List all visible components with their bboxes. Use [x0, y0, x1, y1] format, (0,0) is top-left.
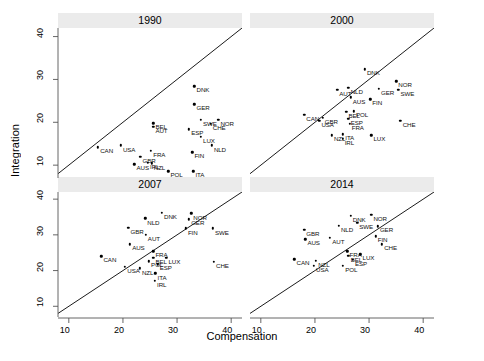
data-point-label: CHE — [384, 245, 397, 251]
panel-strip-label-2014: 2014 — [250, 177, 434, 192]
data-point-label: DNK — [164, 214, 177, 220]
y-axis-row-0 — [52, 28, 59, 178]
data-point-label: CAN — [297, 260, 310, 266]
data-point-label: NZL — [334, 136, 345, 142]
identity-reference-line — [250, 192, 434, 317]
plot-area-1990: CANUSAAUSGBRIRLNZLFRABELAUTPOLDNKGERSWEE… — [58, 28, 242, 178]
data-point-label: FRA — [153, 152, 165, 158]
x-tick-label-10: 10 — [252, 326, 262, 335]
data-point-label: NOR — [373, 216, 386, 222]
plot-area-2007: CANUSAGBRAUSNZLNLDAUTPOLFRABELITAIRLESPD… — [58, 192, 242, 317]
data-point-label: LUX — [373, 136, 385, 142]
y-tick-label-10: 10 — [36, 297, 45, 307]
data-point-label: GBR — [306, 231, 319, 237]
plot-area-2014: CANGBRAUSUSANZLAUTNLDPOLFRABELESPDNKSWEL… — [250, 192, 434, 317]
x-tick-label-20: 20 — [114, 326, 124, 335]
data-point-label: FRA — [352, 125, 364, 131]
data-point-label: NZL — [154, 165, 165, 171]
data-point-label: GER — [197, 105, 210, 111]
data-point-label: GBR — [131, 229, 144, 235]
data-point-label: AUS — [353, 99, 365, 105]
y-tick-label-20: 20 — [36, 262, 45, 272]
data-point-label: NZL — [142, 270, 153, 276]
x-tick-label-30: 30 — [360, 326, 370, 335]
data-point-label: SWE — [359, 224, 373, 230]
data-point-label: ITA — [345, 135, 354, 141]
data-point-label: NOR — [398, 82, 411, 88]
data-point-label: LUX — [168, 259, 180, 265]
data-point-label: POL — [345, 267, 357, 273]
y-tick-label-40: 40 — [36, 190, 45, 200]
data-point-label: AUS — [137, 165, 149, 171]
data-point-label: GER — [380, 227, 393, 233]
data-point-label: SWE — [400, 91, 414, 97]
data-point-label: NLD — [351, 89, 363, 95]
data-point-label: ESP — [355, 261, 367, 267]
data-point-label: CAN — [100, 148, 113, 154]
y-tick-label-30: 30 — [36, 70, 45, 80]
data-point-label: FIN — [194, 153, 204, 159]
data-point-label: NLD — [341, 227, 353, 233]
x-tick-label-40: 40 — [222, 326, 232, 335]
identity-reference-line — [58, 192, 242, 317]
data-point-label: GBR — [325, 119, 338, 125]
data-point-label: FIN — [188, 230, 198, 236]
data-point-label: CHE — [403, 122, 416, 128]
facet-panel-1990: 1990CANUSAAUSGBRIRLNZLFRABELAUTPOLDNKGER… — [58, 13, 242, 178]
data-point-label: USA — [127, 268, 139, 274]
data-point-label: NLD — [214, 147, 226, 153]
scatter-plot-figure: Integration Compensation 1990CANUSAAUSGB… — [0, 0, 484, 361]
data-point-label: LUX — [363, 255, 375, 261]
data-point-label: CAN — [103, 257, 116, 263]
x-axis-title: Compensation — [0, 330, 484, 342]
x-tick-label-30: 30 — [168, 326, 178, 335]
data-point-label: CHE — [216, 263, 229, 269]
y-tick-label-10: 10 — [36, 156, 45, 166]
panel-strip-label-2007: 2007 — [58, 177, 242, 192]
identity-reference-line — [250, 28, 434, 178]
data-point-label: LUX — [203, 138, 215, 144]
data-point-label: ESP — [160, 265, 172, 271]
data-point-label: GER — [381, 90, 394, 96]
data-point-label: NOR — [220, 121, 233, 127]
y-axis-row-2 — [52, 192, 59, 317]
data-point-label: AUS — [307, 240, 319, 246]
x-axis-col-2 — [58, 317, 242, 324]
data-point-label: AUT — [148, 236, 160, 242]
data-point-label: NOR — [193, 215, 206, 221]
data-point-label: AUT — [332, 239, 344, 245]
data-point-label: FIN — [372, 100, 382, 106]
data-point-label: USA — [123, 147, 135, 153]
x-axis-col-3 — [250, 317, 434, 324]
facet-panel-2014: 2014CANGBRAUSUSANZLAUTNLDPOLFRABELESPDNK… — [250, 177, 434, 317]
panel-strip-label-2000: 2000 — [250, 13, 434, 28]
data-point-label: AUT — [155, 128, 167, 134]
identity-reference-line — [58, 28, 242, 178]
data-point-label: IRL — [157, 282, 166, 288]
y-tick-label-30: 30 — [36, 226, 45, 236]
data-point-label: AUS — [132, 245, 144, 251]
data-point-label: NZL — [318, 262, 329, 268]
plot-area-2000: CANUSAGBRNZLIRLITAAUTNLDAUSBELPOLESPFRAD… — [250, 28, 434, 178]
data-point-label: DNK — [197, 87, 210, 93]
data-point-label: GER — [191, 220, 204, 226]
y-axis-title: Integration — [6, 0, 24, 300]
facet-panel-2007: 2007CANUSAGBRAUSNZLNLDAUTPOLFRABELITAIRL… — [58, 177, 242, 317]
panel-strip-label-1990: 1990 — [58, 13, 242, 28]
x-tick-label-10: 10 — [60, 326, 70, 335]
data-point-label: ITA — [158, 275, 167, 281]
data-point-label: NLD — [147, 220, 159, 226]
y-tick-label-20: 20 — [36, 113, 45, 123]
data-point-label: POL — [356, 112, 368, 118]
y-tick-label-40: 40 — [36, 28, 45, 38]
x-tick-label-40: 40 — [414, 326, 424, 335]
data-point-label: SWE — [215, 230, 229, 236]
data-point-label: DNK — [367, 70, 380, 76]
facet-panel-2000: 2000CANUSAGBRNZLIRLITAAUTNLDAUSBELPOLESP… — [250, 13, 434, 178]
x-tick-label-20: 20 — [306, 326, 316, 335]
